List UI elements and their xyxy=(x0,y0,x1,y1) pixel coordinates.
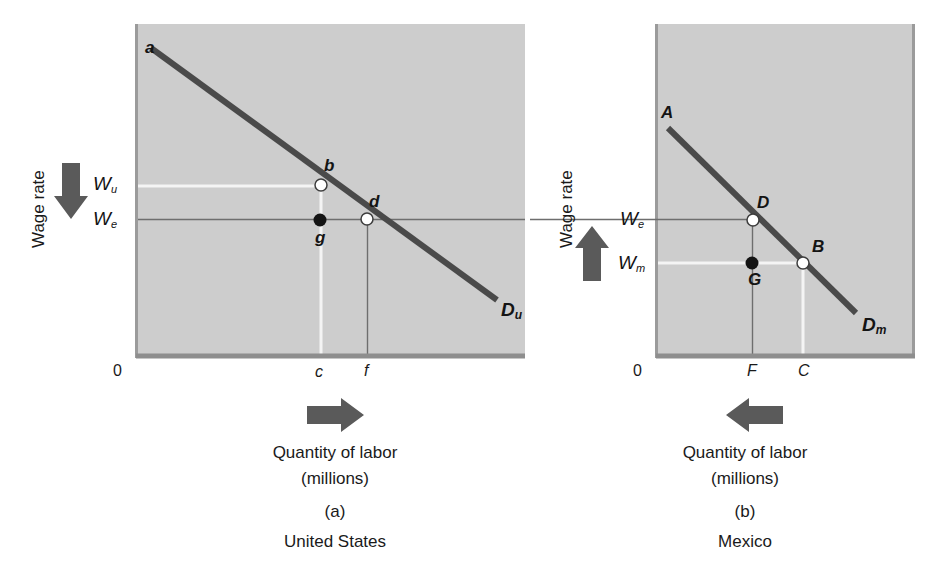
labor-market-migration-figure: Wage rate Wu We a b d g Du 0 c f Quantit… xyxy=(0,0,933,584)
curve-label-dm: Dm xyxy=(862,315,886,334)
x-tick-label-c: c xyxy=(315,364,323,380)
panel-b-country: Mexico xyxy=(615,529,875,555)
point-b-upper-marker xyxy=(797,257,809,269)
point-label-b-upper: B xyxy=(812,238,824,255)
point-label-b: b xyxy=(324,157,334,174)
point-label-g: g xyxy=(315,229,325,246)
up-arrow-icon xyxy=(575,226,609,281)
point-label-a-upper: A xyxy=(661,104,673,121)
panel-b-letter: (b) xyxy=(615,499,875,525)
panel-a-graph xyxy=(135,24,525,358)
point-g-upper-marker xyxy=(746,257,759,270)
point-d-upper-marker xyxy=(747,214,759,226)
y-tick-label-we: We xyxy=(93,209,117,228)
curve-label-du: Du xyxy=(501,300,522,319)
point-label-d: d xyxy=(369,193,379,210)
panel-b-caption: Quantity of labor (millions) (b) Mexico xyxy=(615,440,875,555)
point-label-d-upper: D xyxy=(757,194,769,211)
point-g-marker xyxy=(314,214,327,227)
panel-b-plot-background xyxy=(658,24,912,354)
x-tick-label-zero-b: 0 xyxy=(633,363,642,379)
point-d-marker xyxy=(361,213,373,225)
panel-a-caption: Quantity of labor (millions) (a) United … xyxy=(205,440,465,555)
panel-a-x-axis-title-line1: Quantity of labor xyxy=(205,440,465,466)
x-tick-label-f-upper: F xyxy=(747,363,757,379)
panel-a-x-axis-title-line2: (millions) xyxy=(205,466,465,492)
panel-b-x-axis-title-line1: Quantity of labor xyxy=(615,440,875,466)
down-arrow-icon xyxy=(54,163,88,219)
panel-a-plot-background xyxy=(138,24,525,354)
panel-b-x-axis-title-line2: (millions) xyxy=(615,466,875,492)
right-arrow-icon xyxy=(307,398,364,432)
x-tick-label-f: f xyxy=(364,363,368,379)
point-label-g-upper: G xyxy=(748,271,761,288)
panel-a-country: United States xyxy=(205,529,465,555)
x-tick-label-c-upper: C xyxy=(798,363,810,379)
panel-b-y-axis-title: Wage rate xyxy=(558,170,575,248)
x-tick-label-zero-a: 0 xyxy=(113,363,122,379)
panel-a-letter: (a) xyxy=(205,499,465,525)
panel-b-graph xyxy=(530,24,915,358)
point-label-a: a xyxy=(145,39,154,56)
point-b-marker xyxy=(315,179,327,191)
y-tick-label-we-upper: We xyxy=(620,209,644,228)
y-tick-label-wu: Wu xyxy=(93,174,117,193)
y-tick-label-wm: Wm xyxy=(618,253,645,272)
panel-a-y-axis-title: Wage rate xyxy=(30,170,47,248)
left-arrow-icon xyxy=(726,398,783,432)
